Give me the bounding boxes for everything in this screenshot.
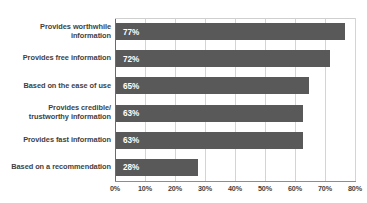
category-label-line: Provides free information [0,54,111,63]
x-tick-label: 0% [98,184,132,193]
bar-value-label: 72% [123,54,139,63]
x-tick-label: 50% [248,184,282,193]
category-label-line: Provides fast information [0,136,111,145]
category-label-line: Based on a recommendation [0,163,111,172]
bar-value-label: 63% [123,109,139,118]
category-label-line: information [0,32,111,41]
gridline-20 [175,18,176,181]
x-tick-label: 80% [338,184,367,193]
x-tick-label: 30% [188,184,222,193]
bar: 65% [116,77,309,94]
x-tick-label: 70% [308,184,342,193]
y-axis-line [115,18,116,181]
gridlines [115,18,355,181]
plot-area: 77%72%65%63%63%28% [115,18,355,181]
category-axis-labels: Provides worthwhileinformationProvides f… [0,18,111,181]
category-label-line: Based on the ease of use [0,82,111,91]
gridline-60 [295,18,296,181]
bar: 72% [116,50,330,67]
plot-right-border [355,18,356,181]
bar-value-label: 77% [123,27,139,36]
category-label: Based on a recommendation [0,163,111,172]
gridline-40 [235,18,236,181]
category-label: Provides fast information [0,136,111,145]
bar-value-label: 65% [123,81,139,90]
x-tick-label: 40% [218,184,252,193]
x-tick-label: 60% [278,184,312,193]
bar-value-label: 63% [123,136,139,145]
gridline-30 [205,18,206,181]
category-label: Based on the ease of use [0,82,111,91]
gridline-50 [265,18,266,181]
x-tick-label: 10% [128,184,162,193]
plot-top-border [115,18,356,19]
chart-title-clipped: ■ ■■ ■ [115,0,355,2]
x-axis-line [115,181,356,182]
bar: 77% [116,23,345,40]
gridline-10 [145,18,146,181]
bar: 63% [116,132,303,149]
bar-value-label: 28% [123,163,139,172]
bar: 63% [116,105,303,122]
category-label: Provides credible/trustworthy informatio… [0,104,111,121]
bar: 28% [116,159,198,176]
gridline-70 [325,18,326,181]
x-axis-tick-labels: 0%10%20%30%40%50%60%70%80% [115,184,356,196]
category-label: Provides free information [0,54,111,63]
category-label: Provides worthwhileinformation [0,23,111,40]
category-label-line: trustworthy information [0,113,111,122]
x-tick-label: 20% [158,184,192,193]
